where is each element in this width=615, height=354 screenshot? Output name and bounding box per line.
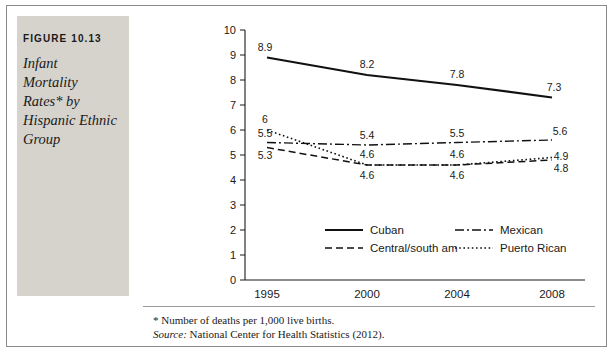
- figure-number: FIGURE 10.13: [23, 33, 102, 44]
- figure-title-line-1: Infant: [23, 54, 127, 73]
- figure-title: Infant Mortality Rates* by Hispanic Ethn…: [23, 54, 127, 149]
- data-point-label: 4.6: [450, 148, 465, 160]
- y-tick-label: 4: [230, 174, 236, 186]
- chart-plot-area: 012345678910 1995200020042008 8.98.27.87…: [207, 22, 597, 312]
- figure-title-line-5: Group: [23, 130, 127, 149]
- data-point-label: 7.8: [450, 68, 465, 80]
- data-point-label: 4.8: [554, 162, 569, 174]
- data-point-label: 6: [262, 113, 268, 125]
- series-line: [267, 140, 552, 145]
- data-point-label: 4.6: [360, 169, 375, 181]
- line-chart: 012345678910 1995200020042008 8.98.27.87…: [207, 22, 597, 312]
- data-point-label: 5.5: [450, 127, 465, 139]
- footnote-text: * Number of deaths per 1,000 live births…: [153, 314, 334, 326]
- legend-label: Puerto Rican: [500, 242, 566, 254]
- figure-title-line-3: Rates* by: [23, 92, 127, 111]
- y-tick-label: 9: [230, 49, 236, 61]
- x-tick-label: 2008: [539, 288, 565, 300]
- data-point-label: 8.2: [360, 58, 375, 70]
- chart-legend: CubanMexicanCentral/south amPuerto Rican: [325, 224, 566, 254]
- figure-frame: FIGURE 10.13 Infant Mortality Rates* by …: [6, 5, 607, 347]
- figure-title-line-2: Mortality: [23, 73, 127, 92]
- source-label: Source:: [153, 328, 187, 340]
- figure-title-line-4: Hispanic Ethnic: [23, 111, 127, 130]
- data-point-label: 4.6: [450, 169, 465, 181]
- legend-label: Central/south am: [370, 242, 458, 254]
- series-line: [267, 130, 552, 165]
- source-line: Source: National Center for Health Stati…: [153, 328, 384, 340]
- data-point-label: 5.4: [360, 129, 375, 141]
- legend-label: Cuban: [370, 224, 404, 236]
- y-axis-ticks: 012345678910: [224, 24, 245, 286]
- y-tick-label: 7: [230, 99, 236, 111]
- y-tick-label: 0: [230, 274, 236, 286]
- y-tick-label: 6: [230, 124, 236, 136]
- x-axis-ticks: 1995200020042008: [254, 288, 565, 300]
- data-point-label: 5.6: [553, 125, 568, 137]
- data-point-label: 4.6: [360, 148, 375, 160]
- x-tick-label: 2004: [444, 288, 470, 300]
- footnote-divider: [143, 306, 595, 307]
- data-point-label: 8.9: [258, 41, 273, 53]
- source-text: National Center for Health Statistics (2…: [187, 328, 385, 340]
- series-line: [267, 148, 552, 166]
- y-tick-label: 3: [230, 199, 236, 211]
- data-point-label: 7.3: [547, 81, 562, 93]
- y-tick-label: 8: [230, 74, 236, 86]
- data-point-label: 4.9: [554, 150, 569, 162]
- x-tick-label: 1995: [254, 288, 280, 300]
- y-tick-label: 5: [230, 149, 236, 161]
- series-line: [267, 58, 552, 98]
- data-point-label: 5.3: [258, 149, 273, 161]
- chart-series-group: [267, 58, 552, 166]
- y-tick-label: 10: [224, 24, 236, 36]
- legend-label: Mexican: [500, 224, 543, 236]
- x-tick-label: 2000: [354, 288, 380, 300]
- data-point-label: 5.5: [258, 127, 273, 139]
- y-tick-label: 2: [230, 224, 236, 236]
- y-tick-label: 1: [230, 249, 236, 261]
